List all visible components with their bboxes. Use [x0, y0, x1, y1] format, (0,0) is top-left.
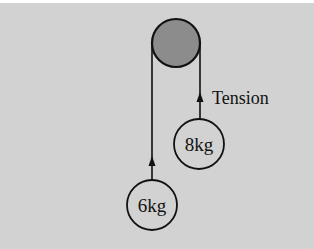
right-tension-arrow-icon	[197, 92, 204, 102]
diagram-canvas: 8kg 6kg Tension	[0, 0, 314, 249]
pulley	[152, 19, 200, 67]
left-tension-arrow-icon	[149, 156, 156, 166]
mass-8kg: 8kg	[174, 119, 224, 169]
mass-8kg-label: 8kg	[185, 134, 214, 155]
mass-6kg-label: 6kg	[138, 195, 167, 216]
tension-label: Tension	[212, 88, 269, 108]
mass-6kg: 6kg	[127, 180, 177, 230]
